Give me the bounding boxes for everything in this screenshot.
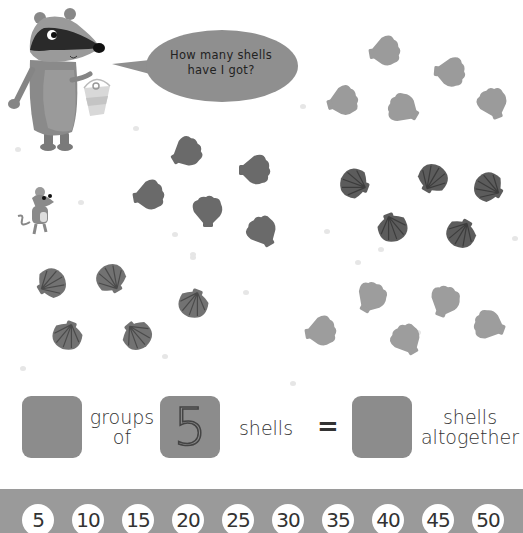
number-circle-35: 35 xyxy=(322,504,354,533)
sand-dot xyxy=(243,290,249,295)
shells-label: shells xyxy=(236,418,296,438)
speech-line-1: How many shells xyxy=(150,48,292,63)
total-answer-box[interactable] xyxy=(352,396,412,458)
number-circle-45: 45 xyxy=(422,504,454,533)
shells-altogether-label: shells altogether xyxy=(420,407,520,447)
shell-group-middle-right xyxy=(320,150,523,260)
sand-dot xyxy=(300,104,306,109)
speech-line-2: have I got? xyxy=(150,63,292,78)
number-circle-25: 25 xyxy=(222,504,254,533)
number-circle-15: 15 xyxy=(122,504,154,533)
shell-group-bottom-right xyxy=(300,270,523,370)
dotted-digit-tracing: 5 xyxy=(160,401,220,453)
equals-sign: = xyxy=(315,416,341,436)
group-size-box[interactable]: 5 xyxy=(160,396,220,458)
shell-group-top-right xyxy=(320,30,523,140)
number-circle-5: 5 xyxy=(22,504,54,533)
number-circle-10: 10 xyxy=(72,504,104,533)
number-circle-30: 30 xyxy=(272,504,304,533)
groups-answer-box[interactable] xyxy=(22,396,82,458)
groups-of-label: groups of xyxy=(88,407,156,447)
number-circle-40: 40 xyxy=(372,504,404,533)
sand-dot xyxy=(290,381,296,386)
sand-dot xyxy=(355,260,361,265)
badger-illustration xyxy=(0,0,120,160)
speech-bubble-text: How many shells have I got? xyxy=(150,48,292,78)
number-circle-50: 50 xyxy=(472,504,504,533)
number-circle-20: 20 xyxy=(172,504,204,533)
sand-dot xyxy=(78,200,84,205)
shell-group-bottom-left xyxy=(0,240,230,370)
mouse-illustration xyxy=(14,186,58,236)
